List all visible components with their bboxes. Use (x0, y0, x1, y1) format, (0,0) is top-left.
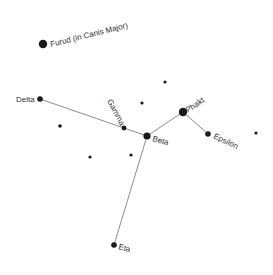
constellation-line-gamma-beta (124, 128, 147, 136)
star-label: Beta (151, 134, 170, 147)
constellation-line-beta-eta (114, 136, 147, 245)
sky-canvas: Furud (in Canis Major)DeltaGammaBetaPhak… (0, 0, 273, 275)
named-stars: Furud (in Canis Major)DeltaGammaBetaPhak… (16, 21, 240, 254)
faint-star-icon (163, 80, 166, 83)
star-label: Delta (16, 95, 35, 104)
star-label: Eta (117, 242, 131, 254)
faint-star-icon (254, 131, 257, 134)
constellation-line-beta-phakt (147, 112, 183, 136)
star-dot-icon (111, 242, 117, 248)
star-dot-icon (143, 132, 150, 139)
faint-star-icon (88, 155, 91, 158)
star-label: Epsilon (212, 132, 240, 151)
star-epsilon: Epsilon (205, 131, 240, 151)
star-phakt: Phakt (179, 95, 207, 116)
star-label: Phakt (184, 95, 207, 115)
star-dot-icon (205, 131, 211, 137)
star-eta: Eta (111, 242, 132, 254)
star-label: Gamma (105, 98, 127, 128)
star-dot-icon (122, 126, 127, 131)
star-furud: Furud (in Canis Major) (39, 21, 129, 49)
faint-star-icon (140, 101, 143, 104)
star-beta: Beta (143, 132, 170, 147)
constellation-line-phakt-epsilon (183, 112, 208, 134)
faint-star-icon (58, 124, 62, 128)
faint-star-icon (129, 153, 132, 156)
star-dot-icon (39, 40, 47, 48)
star-delta: Delta (16, 95, 43, 104)
star-dot-icon (37, 96, 43, 102)
star-chart: Furud (in Canis Major)DeltaGammaBetaPhak… (0, 0, 273, 275)
star-label: Furud (in Canis Major) (49, 21, 129, 49)
